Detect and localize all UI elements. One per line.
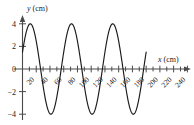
x-axis-tick-labels: 20406080100120140160180200220240	[24, 75, 187, 89]
x-tick-label-240: 240	[173, 75, 187, 89]
x-tick-label-20: 20	[24, 75, 36, 87]
x-tick-label-180: 180	[132, 75, 146, 89]
y-axis-tick-labels: 4 2 0 −2 −4	[7, 20, 16, 119]
y-tick-label-neg4: −4	[7, 110, 16, 119]
x-tick-label-120: 120	[91, 75, 105, 89]
y-axis-label: y (cm)	[26, 4, 48, 13]
plot-canvas: 4 2 0 −2 −4 2040608010012014016018020022…	[0, 0, 194, 125]
y-axis-label-unit: (cm)	[33, 4, 48, 13]
y-axis	[20, 15, 25, 120]
x-tick-label-80: 80	[66, 75, 78, 87]
x-axis-label: x (cm)	[157, 55, 179, 64]
y-tick-label-0: 0	[12, 65, 16, 74]
y-tick-label-2: 2	[12, 42, 16, 51]
y-axis-arrow	[20, 15, 25, 22]
x-tick-label-40: 40	[38, 75, 50, 87]
y-tick-label-4: 4	[12, 20, 16, 29]
x-axis-label-unit: (cm)	[164, 55, 179, 64]
x-tick-label-140: 140	[104, 75, 118, 89]
x-tick-label-60: 60	[52, 75, 64, 87]
x-tick-label-220: 220	[159, 75, 173, 89]
x-tick-label-200: 200	[145, 75, 159, 89]
y-tick-label-neg2: −2	[7, 88, 16, 97]
wave-graph-figure: 4 2 0 −2 −4 2040608010012014016018020022…	[0, 0, 194, 125]
